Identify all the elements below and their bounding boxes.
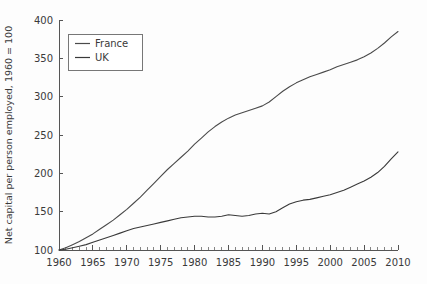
x-tick-label: 1970	[114, 257, 139, 268]
y-tick-label: 100	[34, 245, 53, 256]
x-tick-label: 1980	[182, 257, 207, 268]
y-tick-label: 300	[34, 91, 53, 102]
x-tick-label: 1995	[284, 257, 309, 268]
y-tick-label: 200	[34, 168, 53, 179]
x-tick-label: 1985	[216, 257, 241, 268]
y-tick-label: 250	[34, 130, 53, 141]
x-tick-label: 1965	[80, 257, 105, 268]
legend-label-france: France	[95, 38, 128, 49]
chart-legend[interactable]: FranceUK	[68, 34, 142, 70]
x-tick-label: 2010	[385, 257, 410, 268]
y-tick-label: 150	[34, 206, 53, 217]
line-chart: 1001502002503003504001960196519701975198…	[0, 0, 427, 284]
chart-figure: 1001502002503003504001960196519701975198…	[0, 0, 427, 284]
legend-label-uk: UK	[95, 52, 109, 63]
x-tick-label: 1960	[46, 257, 71, 268]
y-tick-label: 350	[34, 53, 53, 64]
y-axis-label: Net capital per person employed, 1960 = …	[3, 26, 14, 244]
x-tick-label: 2005	[351, 257, 376, 268]
x-tick-label: 1975	[148, 257, 173, 268]
x-tick-label: 2000	[317, 257, 342, 268]
series-line-uk	[59, 152, 398, 250]
x-tick-label: 1990	[250, 257, 275, 268]
y-tick-label: 400	[34, 15, 53, 26]
y-axis-title: Net capital per person employed, 1960 = …	[3, 26, 14, 244]
